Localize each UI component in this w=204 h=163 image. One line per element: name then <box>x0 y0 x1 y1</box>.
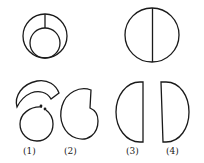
half-disc-left <box>116 82 143 142</box>
arc-piece <box>16 81 59 107</box>
inner-circle <box>30 28 60 58</box>
dot-2 <box>44 108 47 111</box>
option-3-label: (3) <box>126 146 139 156</box>
option-4-label: (4) <box>166 146 179 156</box>
notched-outline <box>61 89 98 139</box>
option-2-label: (2) <box>64 146 77 156</box>
option-3-left-half-disc <box>116 82 143 142</box>
circle-split-by-diameter <box>125 8 179 62</box>
option-1-arc-and-circle <box>16 81 59 141</box>
half-disc-right <box>161 82 189 142</box>
diagram-canvas: (1) (2) (3) (4) <box>0 0 204 163</box>
option-1-label: (1) <box>23 146 36 156</box>
dot-1 <box>40 105 43 108</box>
option-4-right-half-disc <box>161 82 189 142</box>
composite-figure-nested-circles <box>23 14 67 58</box>
small-open-circle <box>20 107 53 141</box>
option-2-notched-shape <box>61 89 98 139</box>
